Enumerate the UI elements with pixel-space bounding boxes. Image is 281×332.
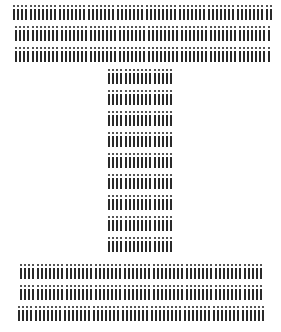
letter-i-glyph bbox=[137, 216, 139, 231]
letter-i-glyph bbox=[214, 47, 216, 62]
letter-i-glyph bbox=[55, 306, 57, 321]
letter-i-glyph bbox=[158, 90, 160, 105]
letter-i-glyph bbox=[70, 264, 72, 279]
letter-i-glyph bbox=[162, 216, 164, 231]
stem-row bbox=[108, 194, 174, 210]
letter-i-glyph bbox=[181, 26, 183, 41]
letter-i-glyph bbox=[106, 47, 108, 62]
letter-i-glyph bbox=[184, 306, 186, 321]
letter-i-glyph bbox=[129, 5, 131, 20]
letter-i-glyph bbox=[162, 195, 164, 210]
letter-i-glyph bbox=[136, 264, 138, 279]
letter-i-glyph bbox=[27, 47, 29, 62]
letter-i-glyph bbox=[116, 237, 118, 252]
letter-i-glyph bbox=[76, 306, 78, 321]
letter-i-glyph bbox=[121, 5, 123, 20]
letter-i-glyph bbox=[166, 195, 168, 210]
letter-i-glyph bbox=[158, 195, 160, 210]
letter-i-glyph bbox=[157, 285, 159, 300]
letter-i-glyph bbox=[53, 264, 55, 279]
letter-i-glyph bbox=[108, 153, 110, 168]
letter-i-glyph bbox=[95, 285, 97, 300]
letter-i-glyph bbox=[179, 5, 181, 20]
letter-i-glyph bbox=[140, 264, 142, 279]
letter-i-glyph bbox=[166, 5, 168, 20]
letter-i-glyph bbox=[98, 26, 100, 41]
letter-i-glyph bbox=[249, 5, 251, 20]
letter-i-glyph bbox=[116, 153, 118, 168]
letter-i-glyph bbox=[154, 5, 156, 20]
letter-i-glyph bbox=[242, 306, 244, 321]
letter-i-glyph bbox=[202, 285, 204, 300]
letter-i-glyph bbox=[133, 195, 135, 210]
letter-i-glyph bbox=[166, 237, 168, 252]
letter-i-glyph bbox=[154, 195, 156, 210]
letter-i-glyph bbox=[135, 26, 137, 41]
letter-i-glyph bbox=[122, 306, 124, 321]
letter-i-glyph bbox=[129, 237, 131, 252]
letter-i-glyph bbox=[145, 90, 147, 105]
letter-i-glyph bbox=[112, 69, 114, 84]
letter-i-glyph bbox=[248, 285, 250, 300]
letter-i-glyph bbox=[214, 26, 216, 41]
letter-i-glyph bbox=[48, 47, 50, 62]
letter-i-glyph bbox=[15, 26, 17, 41]
letter-i-glyph bbox=[115, 285, 117, 300]
letter-i-glyph bbox=[146, 5, 148, 20]
letter-i-glyph bbox=[20, 264, 22, 279]
letter-i-glyph bbox=[129, 216, 131, 231]
letter-i-glyph bbox=[116, 195, 118, 210]
letter-i-glyph bbox=[65, 47, 67, 62]
letter-i-glyph bbox=[162, 132, 164, 147]
letter-i-glyph bbox=[53, 285, 55, 300]
letter-i-glyph bbox=[40, 47, 42, 62]
letter-i-glyph bbox=[69, 47, 71, 62]
letter-i-glyph bbox=[120, 216, 122, 231]
letter-i-glyph bbox=[148, 47, 150, 62]
letter-i-glyph bbox=[247, 26, 249, 41]
letter-i-glyph bbox=[173, 285, 175, 300]
letter-i-glyph bbox=[167, 306, 169, 321]
letter-i-glyph bbox=[247, 47, 249, 62]
letter-i-glyph bbox=[108, 174, 110, 189]
letter-i-glyph bbox=[84, 306, 86, 321]
letter-i-glyph bbox=[173, 264, 175, 279]
letter-i-glyph bbox=[164, 26, 166, 41]
letter-i-glyph bbox=[18, 306, 20, 321]
letter-i-glyph bbox=[73, 47, 75, 62]
letter-i-glyph bbox=[245, 5, 247, 20]
letter-i-glyph bbox=[158, 174, 160, 189]
letter-i-glyph bbox=[137, 237, 139, 252]
letter-i-glyph bbox=[149, 153, 151, 168]
letter-i-glyph bbox=[172, 26, 174, 41]
letter-i-glyph bbox=[256, 285, 258, 300]
letter-i-glyph bbox=[198, 285, 200, 300]
letter-i-glyph bbox=[250, 306, 252, 321]
letter-i-glyph bbox=[137, 195, 139, 210]
letter-i-glyph bbox=[166, 90, 168, 105]
letter-i-glyph bbox=[32, 26, 34, 41]
letter-i-glyph bbox=[244, 285, 246, 300]
letter-i-glyph bbox=[239, 264, 241, 279]
letter-i-glyph bbox=[176, 26, 178, 41]
letter-i-glyph bbox=[127, 47, 129, 62]
letter-i-glyph bbox=[36, 26, 38, 41]
letter-i-glyph bbox=[258, 306, 260, 321]
letter-i-glyph bbox=[252, 264, 254, 279]
letter-i-glyph bbox=[132, 264, 134, 279]
letter-i-glyph bbox=[218, 26, 220, 41]
letter-i-glyph bbox=[85, 47, 87, 62]
letter-i-glyph bbox=[189, 26, 191, 41]
letter-i-glyph bbox=[120, 90, 122, 105]
letter-i-glyph bbox=[110, 26, 112, 41]
letter-i-glyph bbox=[42, 5, 44, 20]
letter-i-glyph bbox=[141, 132, 143, 147]
letter-i-glyph bbox=[222, 47, 224, 62]
letter-i-glyph bbox=[170, 237, 172, 252]
letter-i-glyph bbox=[141, 174, 143, 189]
letter-i-glyph bbox=[125, 174, 127, 189]
letter-i-glyph bbox=[154, 90, 156, 105]
letter-i-glyph bbox=[152, 47, 154, 62]
letter-i-glyph bbox=[137, 153, 139, 168]
letter-i-glyph bbox=[75, 5, 77, 20]
